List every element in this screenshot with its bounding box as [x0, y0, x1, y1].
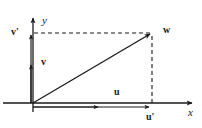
vector-w-line [33, 34, 150, 103]
y-axis-label: y [42, 15, 47, 26]
x-axis-label: x [188, 107, 193, 118]
vector-u-prime-label: u' [146, 112, 154, 122]
vector-w-label: w [163, 25, 170, 35]
vector-diagram-canvas [0, 0, 202, 128]
vector-v-prime-label: v' [11, 27, 19, 37]
vector-u-label: u [114, 87, 120, 97]
vector-v-label: v [41, 57, 46, 67]
vector-diagram-figure: y x w v v' u u' [0, 0, 202, 128]
